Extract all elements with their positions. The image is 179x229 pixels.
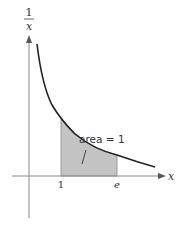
y-axis-label-denominator: x xyxy=(26,20,33,33)
x-axis-arrow-icon xyxy=(158,173,166,179)
y-axis-label-numerator: 1 xyxy=(26,6,33,19)
x-axis-label: x xyxy=(168,170,175,183)
area-annotation: area = 1 xyxy=(79,133,125,145)
tick-label-e: e xyxy=(114,179,120,190)
y-axis-arrow-icon xyxy=(26,35,32,43)
tick-label-1: 1 xyxy=(58,179,64,190)
hyperbola-area-diagram: 1 x x 1 e area = 1 xyxy=(0,0,179,229)
